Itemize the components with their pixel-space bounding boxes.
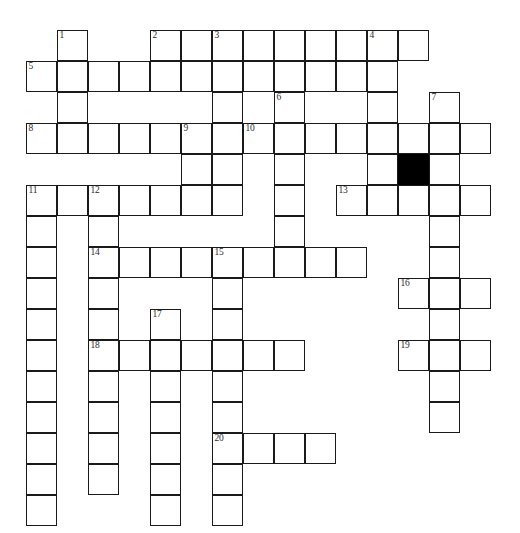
crossword-cell[interactable] (274, 340, 305, 371)
crossword-cell[interactable]: 15 (212, 247, 243, 278)
crossword-cell[interactable] (429, 402, 460, 433)
crossword-cell[interactable] (119, 123, 150, 154)
crossword-cell[interactable]: 2 (150, 30, 181, 61)
crossword-cell[interactable] (367, 92, 398, 123)
crossword-cell[interactable] (460, 123, 491, 154)
crossword-cell[interactable] (119, 61, 150, 92)
crossword-cell[interactable] (243, 30, 274, 61)
crossword-cell[interactable] (150, 340, 181, 371)
crossword-cell[interactable] (88, 61, 119, 92)
crossword-cell[interactable] (429, 247, 460, 278)
crossword-cell[interactable] (88, 309, 119, 340)
crossword-cell[interactable] (398, 123, 429, 154)
crossword-cell[interactable]: 16 (398, 278, 429, 309)
crossword-cell[interactable] (88, 402, 119, 433)
crossword-cell[interactable] (212, 464, 243, 495)
crossword-cell[interactable]: 17 (150, 309, 181, 340)
crossword-cell[interactable] (212, 371, 243, 402)
crossword-cell[interactable] (150, 464, 181, 495)
crossword-cell[interactable] (26, 464, 57, 495)
crossword-cell[interactable] (429, 371, 460, 402)
crossword-cell[interactable] (26, 278, 57, 309)
crossword-cell[interactable] (26, 433, 57, 464)
crossword-cell[interactable] (150, 371, 181, 402)
crossword-cell[interactable] (119, 185, 150, 216)
crossword-cell[interactable] (212, 123, 243, 154)
crossword-cell[interactable] (460, 278, 491, 309)
crossword-cell[interactable]: 6 (274, 92, 305, 123)
crossword-cell[interactable] (274, 433, 305, 464)
crossword-cell[interactable] (26, 371, 57, 402)
crossword-cell[interactable] (26, 495, 57, 526)
crossword-cell[interactable] (367, 185, 398, 216)
crossword-cell[interactable] (150, 495, 181, 526)
crossword-cell[interactable] (212, 185, 243, 216)
crossword-cell[interactable] (212, 154, 243, 185)
crossword-cell[interactable] (243, 433, 274, 464)
crossword-cell[interactable]: 13 (336, 185, 367, 216)
crossword-cell[interactable] (119, 340, 150, 371)
crossword-cell[interactable] (119, 247, 150, 278)
crossword-cell[interactable] (367, 123, 398, 154)
crossword-cell[interactable]: 19 (398, 340, 429, 371)
crossword-cell[interactable] (150, 61, 181, 92)
crossword-cell[interactable] (460, 185, 491, 216)
crossword-cell[interactable]: 12 (88, 185, 119, 216)
crossword-cell[interactable] (429, 185, 460, 216)
crossword-cell[interactable]: 4 (367, 30, 398, 61)
crossword-cell[interactable] (150, 402, 181, 433)
crossword-cell[interactable] (243, 247, 274, 278)
crossword-cell[interactable] (150, 433, 181, 464)
crossword-cell[interactable] (181, 185, 212, 216)
crossword-cell[interactable] (429, 340, 460, 371)
crossword-cell[interactable] (274, 30, 305, 61)
crossword-cell[interactable] (212, 61, 243, 92)
crossword-cell[interactable] (88, 371, 119, 402)
crossword-cell[interactable]: 18 (88, 340, 119, 371)
crossword-cell[interactable] (336, 123, 367, 154)
crossword-cell[interactable]: 7 (429, 92, 460, 123)
crossword-cell[interactable] (305, 433, 336, 464)
crossword-cell[interactable] (274, 185, 305, 216)
crossword-cell[interactable] (274, 216, 305, 247)
crossword-cell[interactable] (429, 154, 460, 185)
crossword-cell[interactable] (57, 185, 88, 216)
crossword-cell[interactable] (429, 278, 460, 309)
crossword-cell[interactable]: 11 (26, 185, 57, 216)
crossword-cell[interactable] (181, 247, 212, 278)
crossword-cell[interactable] (150, 123, 181, 154)
crossword-cell[interactable] (305, 30, 336, 61)
crossword-cell[interactable] (274, 247, 305, 278)
crossword-cell[interactable] (88, 216, 119, 247)
crossword-cell[interactable] (274, 61, 305, 92)
crossword-cell[interactable] (429, 309, 460, 340)
crossword-cell[interactable] (336, 61, 367, 92)
crossword-cell[interactable] (88, 464, 119, 495)
crossword-cell[interactable] (181, 30, 212, 61)
crossword-cell[interactable]: 3 (212, 30, 243, 61)
crossword-cell[interactable] (88, 433, 119, 464)
crossword-cell[interactable] (336, 247, 367, 278)
crossword-cell[interactable] (212, 495, 243, 526)
crossword-cell[interactable] (26, 402, 57, 433)
crossword-cell[interactable]: 20 (212, 433, 243, 464)
crossword-cell[interactable] (212, 92, 243, 123)
crossword-cell[interactable] (57, 61, 88, 92)
crossword-cell[interactable] (150, 185, 181, 216)
crossword-cell[interactable] (429, 123, 460, 154)
crossword-cell[interactable] (274, 154, 305, 185)
crossword-cell[interactable] (150, 247, 181, 278)
crossword-cell[interactable] (243, 61, 274, 92)
crossword-cell[interactable] (212, 402, 243, 433)
crossword-cell[interactable] (181, 340, 212, 371)
crossword-cell[interactable]: 1 (57, 30, 88, 61)
crossword-cell[interactable] (367, 154, 398, 185)
crossword-cell[interactable] (26, 216, 57, 247)
crossword-cell[interactable] (181, 154, 212, 185)
crossword-cell[interactable] (398, 30, 429, 61)
crossword-cell[interactable] (243, 340, 274, 371)
crossword-cell[interactable] (460, 340, 491, 371)
crossword-cell[interactable]: 5 (26, 61, 57, 92)
crossword-grid[interactable]: 1234567891011121314151617181920 (0, 0, 520, 533)
crossword-cell[interactable] (212, 278, 243, 309)
